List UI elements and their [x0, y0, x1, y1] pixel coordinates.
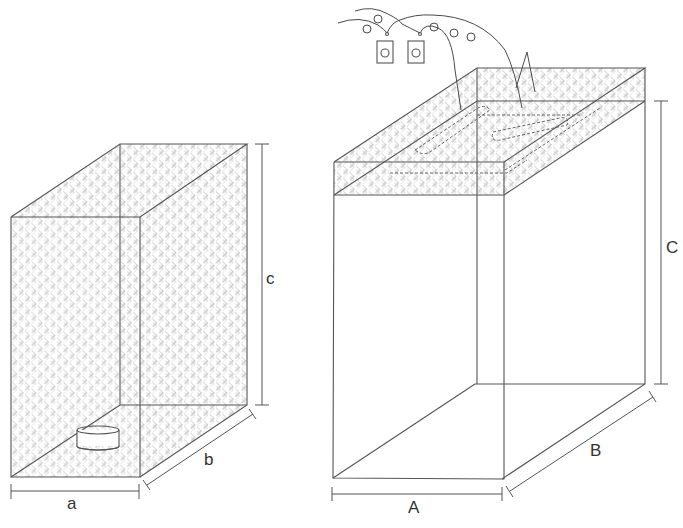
device-1-box: [377, 41, 393, 63]
right-enclosure: [333, 68, 645, 479]
left-front-face: [11, 217, 140, 477]
diagram-canvas: [0, 0, 683, 528]
label-b: b: [204, 451, 213, 468]
device-2-box: [408, 41, 424, 63]
label-B: B: [590, 442, 601, 459]
dimension-B: [506, 391, 656, 497]
label-C: C: [666, 239, 678, 256]
label-a: a: [67, 495, 76, 512]
left-enclosure: [11, 144, 247, 477]
power-devices: [377, 33, 424, 64]
label-A: A: [408, 499, 419, 516]
label-c: c: [266, 270, 275, 287]
